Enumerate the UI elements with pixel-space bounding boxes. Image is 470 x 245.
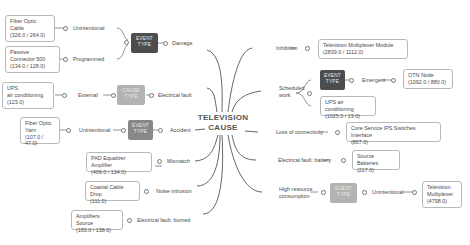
label-emergent: Emergent (362, 77, 385, 84)
node-ups-air-conditioning-right[interactable]: UPS air conditioning (1025.0 / 13.0) (320, 96, 376, 116)
node-source-batteries[interactable]: Source Batteries (217.0) (352, 150, 400, 170)
node-value: (217.0) (357, 167, 395, 174)
node-title: UPS (7, 85, 49, 92)
label-high-resource-consumption: High resource consumption (279, 186, 313, 200)
node-title: Fiber Optic (10, 18, 50, 25)
collapse-toggle[interactable] (335, 130, 340, 135)
node-value: (107.0 / 47.0) (25, 134, 55, 148)
node-value: (1025.0 / 13.0) (325, 113, 371, 120)
collapse-toggle[interactable] (412, 190, 417, 195)
node-title: UPS air conditioning (325, 99, 371, 113)
label-electrical-fault-burned: Electrical fault: burned (137, 217, 190, 224)
label-unintentional: Unintentional (73, 25, 104, 32)
label-electrical-fault-battery: Electrical fault: battery (278, 157, 331, 164)
collapse-toggle[interactable] (62, 93, 67, 98)
label-line: High resource (279, 186, 313, 193)
node-television-multiplexer[interactable]: Television Multiplexer (4798.0) (422, 181, 462, 208)
node-fiber-optic-cable[interactable]: Fiber Optic Cable (326.0 / 264.0) (5, 15, 55, 42)
root-title-line2: CAUSE (196, 123, 250, 133)
event-type-tag[interactable]: EVENT TYPE (128, 120, 153, 140)
label-mismatch: Mismatch (167, 158, 190, 165)
collapse-toggle[interactable] (127, 218, 132, 223)
root-title-line1: TELEVISION (196, 113, 250, 123)
label-unintentional: Unintentional (79, 127, 110, 134)
node-passive-connector[interactable]: Passive Connector 500 (134.0 / 128.0) (5, 46, 60, 73)
node-title: Multiplexer (427, 191, 457, 198)
node-television-multiplexer-module[interactable]: Television Multiplexer Module (2839.0 / … (318, 39, 408, 59)
root-node[interactable]: TELEVISION CAUSE (196, 113, 250, 133)
node-title: Television (427, 184, 457, 191)
node-value: (857.0) (351, 139, 436, 146)
node-title: Source Batteries (357, 153, 395, 167)
collapse-toggle[interactable] (157, 159, 162, 164)
node-title: Yarn (25, 127, 55, 134)
node-value: (183.0 / 138.0) (76, 227, 118, 234)
label-loss-of-connectivity: Loss of connectivity (276, 129, 323, 136)
node-title: Passive (10, 49, 55, 56)
label-line: work (279, 92, 304, 99)
node-coaxial-cable-drop[interactable]: Coaxial Cable Drop (111.0) (85, 181, 140, 201)
node-title: Coaxial Cable Drop (90, 184, 135, 198)
collapse-toggle[interactable] (63, 26, 68, 31)
label-unintentional: Unintentional (372, 189, 403, 196)
label-electrical-fault: Electrical fault (158, 92, 192, 99)
node-ups-air-conditioning[interactable]: UPS air conditioning (123.0) (2, 82, 54, 109)
collapse-toggle[interactable] (307, 91, 312, 96)
node-title: Fiber Optic (25, 120, 55, 127)
label-line: consumption (279, 193, 313, 200)
collapse-toggle[interactable] (111, 93, 116, 98)
collapse-toggle[interactable] (144, 189, 149, 194)
node-title: Cable (10, 25, 50, 32)
node-core-service-ips[interactable]: Core Service IPS Switches Interface (857… (346, 122, 441, 142)
collapse-toggle[interactable] (362, 190, 367, 195)
node-otn-node[interactable]: OTN Node (1092.0 / 880.0) (403, 69, 453, 89)
node-value: (4798.0) (427, 198, 457, 205)
collapse-toggle[interactable] (305, 46, 310, 51)
event-type-tag[interactable]: EVENT TYPE (131, 33, 158, 53)
collapse-toggle[interactable] (124, 40, 129, 45)
node-title: air conditioning (7, 92, 49, 99)
node-value: (134.0 / 128.0) (10, 63, 55, 70)
tag-line: TYPE (128, 129, 153, 135)
label-damage: Damage (172, 40, 192, 47)
collapse-toggle[interactable] (349, 78, 354, 83)
node-pad-equalizer-amplifier[interactable]: PAD Equalizer Amplifier (409.0 / 134.0) (86, 152, 152, 172)
label-external: External (78, 92, 98, 99)
collapse-toggle[interactable] (158, 128, 163, 133)
tag-line: TYPE (320, 79, 345, 85)
tag-line: TYPE (117, 94, 145, 100)
node-value: (111.0) (90, 198, 135, 205)
collapse-toggle[interactable] (391, 78, 396, 83)
collapse-toggle[interactable] (121, 128, 126, 133)
node-title: Connector 500 (10, 56, 55, 63)
node-title: Core Service IPS Switches Interface (351, 125, 436, 139)
tag-line: TYPE (131, 42, 158, 48)
node-value: (326.0 / 264.0) (10, 32, 50, 39)
node-value: (409.0 / 134.0) (91, 169, 147, 176)
label-scheduled-work: Scheduled work (279, 85, 304, 99)
collapse-toggle[interactable] (66, 128, 71, 133)
node-fiber-optic-yarn[interactable]: Fiber Optic Yarn (107.0 / 47.0) (20, 117, 60, 144)
node-title: Television Multiplexer Module (323, 42, 403, 49)
node-value: (123.0) (7, 99, 49, 106)
event-type-tag[interactable]: EVENT TYPE (320, 70, 345, 90)
event-type-tag[interactable]: EVENT TYPE (330, 183, 357, 203)
collapse-toggle[interactable] (341, 158, 346, 163)
label-noise-intrusion: Noise intrusion (156, 188, 192, 195)
node-title: OTN Node (408, 72, 448, 79)
collapse-toggle[interactable] (163, 41, 168, 46)
collapse-toggle[interactable] (63, 57, 68, 62)
node-title: PAD Equalizer Amplifier (91, 155, 147, 169)
label-programmed: Programmed (73, 56, 104, 63)
node-title: Amplifiers Source (76, 213, 118, 227)
label-accident: Accident (170, 127, 191, 134)
collapse-toggle[interactable] (321, 190, 326, 195)
collapse-toggle[interactable] (149, 93, 154, 98)
label-line: Scheduled (279, 85, 304, 92)
node-value: (1092.0 / 880.0) (408, 79, 448, 86)
node-amplifiers-source[interactable]: Amplifiers Source (183.0 / 138.0) (71, 210, 123, 230)
label-inhibition: Inhibition (276, 45, 298, 52)
cause-type-tag[interactable]: CAUSE TYPE (117, 85, 145, 105)
node-value: (2839.0 / 1112.0) (323, 49, 403, 56)
tag-line: TYPE (330, 192, 357, 198)
